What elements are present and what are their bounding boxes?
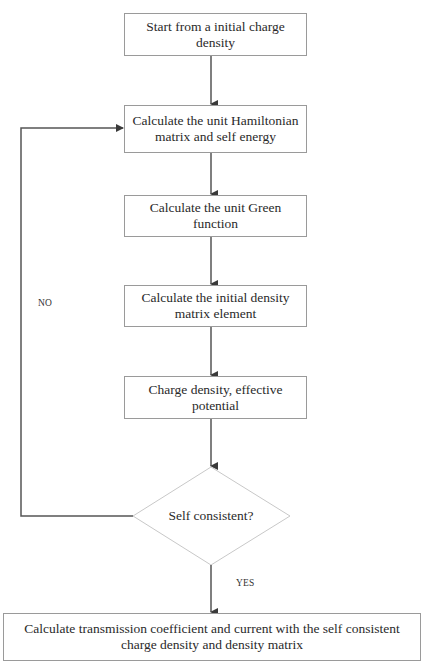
step-hamiltonian: Calculate the unit Hamiltonian matrix an… <box>124 105 307 153</box>
edge-label-yes: YES <box>236 578 255 588</box>
step-green-function: Calculate the unit Green function <box>124 195 307 237</box>
step-start: Start from a initial charge density <box>124 13 307 56</box>
step-charge-potential-label: Charge density, effective potential <box>131 382 300 414</box>
step-density-matrix-label: Calculate the initial density matrix ele… <box>131 290 300 322</box>
step-final-transmission: Calculate transmission coefficient and c… <box>3 613 421 661</box>
step-hamiltonian-label: Calculate the unit Hamiltonian matrix an… <box>131 113 300 145</box>
arrow-no-loop <box>21 128 133 516</box>
step-green-function-label: Calculate the unit Green function <box>131 200 300 232</box>
flowchart-canvas: Start from a initial charge density Calc… <box>0 0 433 668</box>
step-charge-potential: Charge density, effective potential <box>124 376 307 419</box>
edge-label-no: NO <box>38 298 52 308</box>
flowchart-connectors <box>0 0 433 668</box>
decision-label: Self consistent? <box>141 508 281 524</box>
step-final-label: Calculate transmission coefficient and c… <box>14 621 410 653</box>
step-start-label: Start from a initial charge density <box>131 19 300 51</box>
step-density-matrix: Calculate the initial density matrix ele… <box>124 285 307 327</box>
